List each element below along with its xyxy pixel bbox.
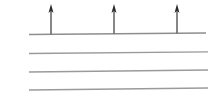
figure-container: Upward arrows rising from the top of a s… (0, 0, 219, 101)
canvas-background (0, 0, 219, 101)
diagram-canvas (0, 0, 219, 101)
